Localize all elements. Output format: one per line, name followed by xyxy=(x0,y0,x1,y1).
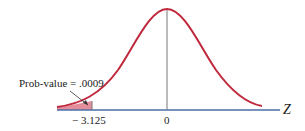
z-axis-label: Z xyxy=(283,102,291,118)
tick-label-zero: 0 xyxy=(164,114,170,126)
prob-value-annotation: Prob-value = .0009 xyxy=(19,77,104,89)
normal-curve-diagram xyxy=(0,0,305,131)
tick-label-neg-3125: − 3.125 xyxy=(72,114,106,126)
bell-curve xyxy=(57,9,262,107)
